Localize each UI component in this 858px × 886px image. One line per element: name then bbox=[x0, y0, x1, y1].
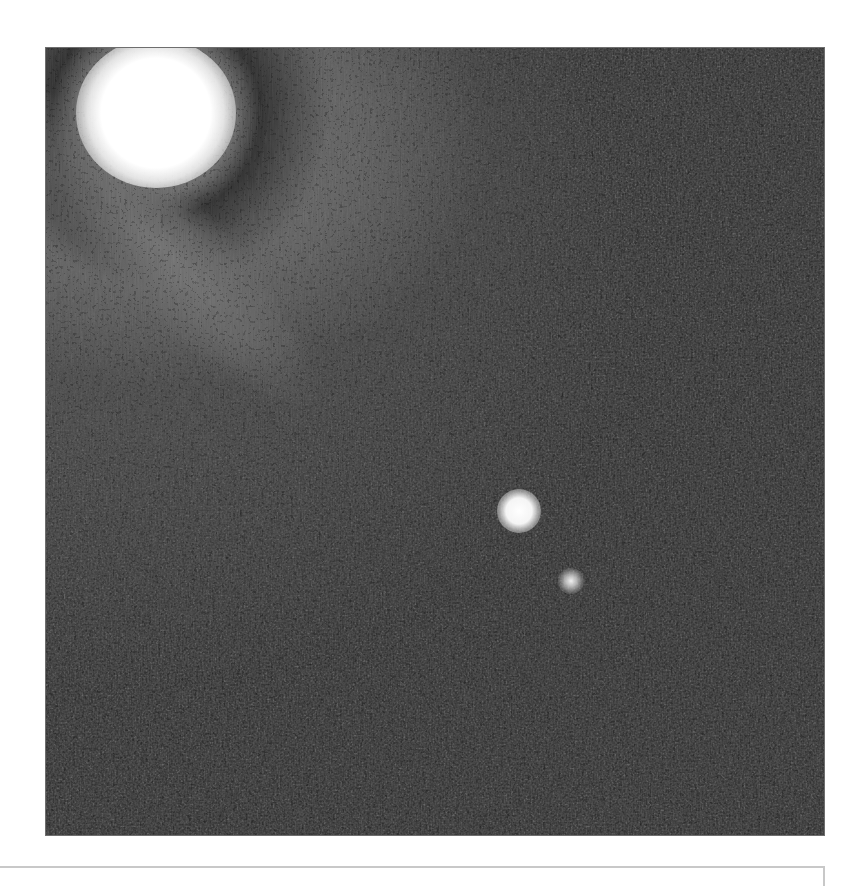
scan-lines bbox=[46, 48, 825, 836]
caption-box bbox=[0, 866, 825, 886]
astronomical-image bbox=[45, 47, 825, 836]
